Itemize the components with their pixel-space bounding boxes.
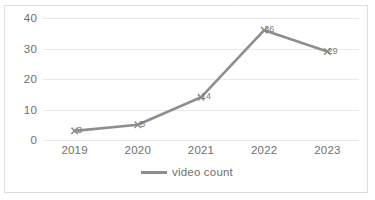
y-axis-tick-0: 0 xyxy=(30,134,37,146)
series-markers xyxy=(71,27,330,134)
data-label-2019: 3 xyxy=(77,125,82,135)
y-axis-tick-10: 10 xyxy=(24,104,37,116)
data-label-2020: 5 xyxy=(140,119,145,129)
data-label-2021: 14 xyxy=(201,91,211,101)
x-axis: 20192020202120222023 xyxy=(43,144,359,164)
gridline-0 xyxy=(43,140,359,141)
chart-legend[interactable]: video count xyxy=(5,166,369,178)
legend-label-video-count: video count xyxy=(172,166,233,178)
data-label-2022: 36 xyxy=(264,24,274,34)
legend-line-swatch xyxy=(141,171,167,174)
y-axis-tick-20: 20 xyxy=(24,73,37,85)
y-axis-tick-40: 40 xyxy=(24,12,37,24)
data-label-2023: 29 xyxy=(327,46,337,56)
x-axis-tick-2019: 2019 xyxy=(61,144,87,156)
x-axis-tick-2021: 2021 xyxy=(188,144,214,156)
x-axis-tick-2022: 2022 xyxy=(251,144,277,156)
chart-container[interactable]: 010203040 35143629 20192020202120222023 … xyxy=(4,5,368,193)
line-series-video-count xyxy=(43,18,359,140)
x-axis-tick-2023: 2023 xyxy=(314,144,340,156)
y-axis-tick-30: 30 xyxy=(24,43,37,55)
series-polyline xyxy=(75,30,328,131)
plot-area: 010203040 35143629 xyxy=(43,18,359,140)
x-axis-tick-2020: 2020 xyxy=(125,144,151,156)
